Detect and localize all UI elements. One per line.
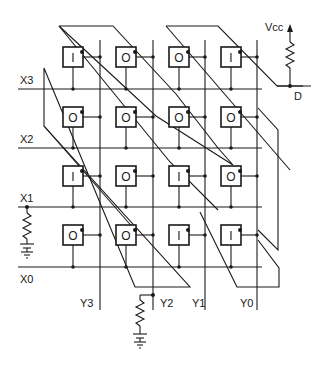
resistor-icon [136, 300, 144, 326]
svg-text:I: I [71, 170, 74, 184]
cell-r0-c0[interactable]: I [63, 47, 102, 91]
y2-bias-network [133, 293, 155, 348]
resistor-icon [286, 42, 294, 68]
svg-text:I: I [229, 229, 232, 243]
svg-text:I: I [71, 51, 74, 65]
band-right [258, 108, 278, 250]
svg-text:O: O [121, 111, 130, 125]
cell-r3-c3[interactable]: I [221, 225, 259, 269]
output-label-d: D [294, 90, 302, 102]
vcc-pullup: Vcc D [265, 21, 303, 102]
vcc-label: Vcc [265, 21, 284, 33]
memory-array-diagram: I O O I O O O [0, 0, 318, 374]
svg-text:I: I [177, 229, 180, 243]
row-label-x0: X0 [20, 273, 33, 285]
svg-text:O: O [121, 229, 130, 243]
cell-r1-c3[interactable]: O [221, 107, 259, 150]
cell-grid: I O O I O O O [63, 47, 259, 269]
cell-r3-c1[interactable]: O [116, 225, 155, 269]
column-label-y1: Y1 [192, 297, 205, 309]
svg-text:O: O [174, 111, 183, 125]
cell-r1-c1[interactable]: O [116, 107, 155, 150]
cell-r0-c3[interactable]: I [221, 47, 259, 91]
cell-r2-c0[interactable]: I [63, 166, 102, 209]
resistor-icon [23, 213, 31, 239]
svg-text:O: O [121, 51, 130, 65]
svg-text:O: O [68, 229, 77, 243]
cell-r3-c0[interactable]: O [63, 225, 102, 269]
x1-bias-network [20, 205, 34, 258]
row-label-x3: X3 [20, 74, 33, 86]
cell-r3-c2[interactable]: I [169, 225, 207, 269]
cell-r2-c2[interactable]: I [169, 166, 207, 209]
svg-text:O: O [174, 51, 183, 65]
cell-r0-c2[interactable]: O [169, 47, 207, 91]
column-label-y0: Y0 [240, 297, 253, 309]
column-label-y2: Y2 [160, 297, 173, 309]
column-label-y3: Y3 [80, 297, 93, 309]
svg-text:O: O [226, 170, 235, 184]
cell-r2-c3[interactable]: O [221, 166, 259, 209]
svg-text:O: O [226, 111, 235, 125]
row-label-x2: X2 [20, 133, 33, 145]
svg-text:O: O [121, 170, 130, 184]
band-top-left [59, 26, 233, 165]
svg-text:I: I [177, 170, 180, 184]
cell-r2-c1[interactable]: O [116, 166, 155, 209]
svg-text:I: I [229, 51, 232, 65]
svg-text:O: O [68, 111, 77, 125]
band-bottom-right [200, 212, 279, 287]
row-label-x1: X1 [20, 192, 33, 204]
